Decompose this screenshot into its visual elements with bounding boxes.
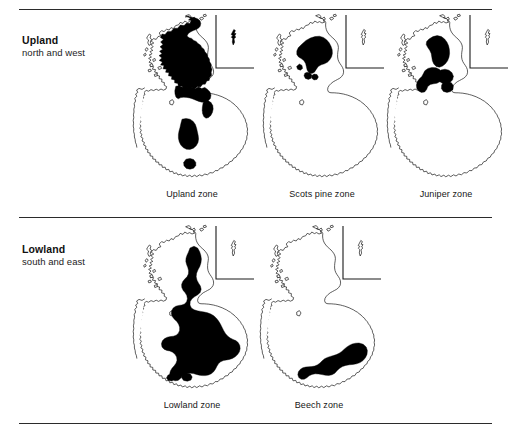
map-upland-zone: Upland zone [128, 12, 256, 208]
shetland-inset [343, 226, 381, 279]
divider-middle [19, 217, 492, 218]
map-scots-pine-zone: Scots pine zone [258, 12, 386, 208]
band-subtitle-lowland: south and east [22, 256, 85, 268]
map-caption-beech-zone: Beech zone [255, 400, 383, 410]
map-lowland-zone: Lowland zone [128, 223, 256, 419]
map-beech-zone: Beech zone [255, 223, 383, 419]
band-heading-upland: Upland north and west [22, 34, 85, 58]
band-title-lowland: Lowland [22, 243, 85, 256]
divider-top [19, 9, 492, 10]
shetland-inset [470, 15, 508, 68]
map-caption-juniper-zone: Juniper zone [382, 189, 510, 199]
map-caption-lowland-zone: Lowland zone [128, 400, 256, 410]
band-title-upland: Upland [22, 34, 85, 47]
shetland-inset [216, 226, 254, 279]
band-subtitle-upland: north and west [22, 47, 85, 59]
map-juniper-zone: Juniper zone [382, 12, 510, 208]
map-caption-upland-zone: Upland zone [128, 189, 256, 199]
map-caption-scots-pine-zone: Scots pine zone [258, 189, 386, 199]
shetland-inset [216, 15, 254, 68]
divider-bottom [19, 423, 492, 424]
vegetation-zones-figure: Upland north and west Lowland south and … [0, 0, 511, 436]
band-heading-lowland: Lowland south and east [22, 243, 85, 267]
shetland-inset [346, 15, 384, 68]
